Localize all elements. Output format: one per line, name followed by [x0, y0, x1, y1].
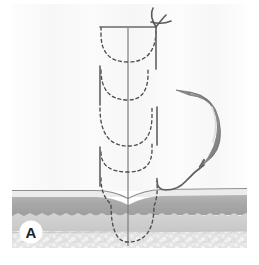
tissue-field-upper — [12, 4, 247, 191]
surgical-illustration: A — [0, 0, 259, 265]
figure-container: A — [0, 0, 259, 265]
panel-letter-label: A — [26, 224, 37, 241]
panel-letter-badge: A — [20, 221, 43, 244]
fat-layer-speckle — [12, 231, 247, 248]
